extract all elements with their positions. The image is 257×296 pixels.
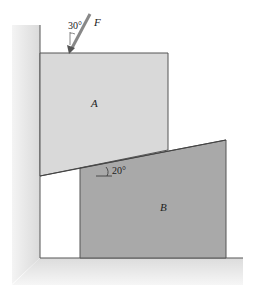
block-a-label: A <box>90 97 98 109</box>
force-label: F <box>93 16 101 28</box>
statics-diagram: 20° 30° F A B <box>0 0 257 296</box>
block-b-label: B <box>160 201 167 213</box>
floor <box>12 258 243 285</box>
force-angle-arc <box>70 33 75 34</box>
wall <box>12 25 40 284</box>
wedge-angle-label: 20° <box>112 165 126 176</box>
force-angle-label: 30° <box>68 20 82 31</box>
